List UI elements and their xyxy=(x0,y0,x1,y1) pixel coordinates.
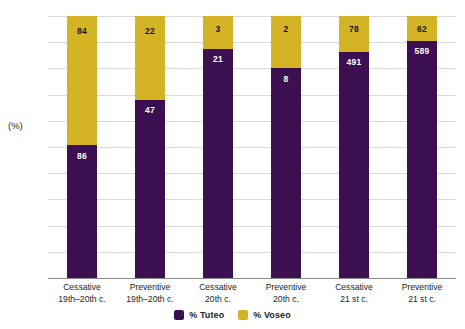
legend-swatch-icon xyxy=(238,310,248,320)
bars-layer: 84862247321287849162589 xyxy=(48,16,456,278)
bar-segment-tuteo[interactable]: 8 xyxy=(271,68,301,278)
y-axis-title: (%) xyxy=(8,120,23,131)
bar-group[interactable]: 2247 xyxy=(135,16,165,278)
x-axis-category-label: Cessative21 st c. xyxy=(320,281,388,306)
gridline xyxy=(48,278,456,279)
legend-item[interactable]: % Tuteo xyxy=(174,310,224,320)
x-axis-category-label: Cessative19th–20th c. xyxy=(48,281,116,306)
chart-legend: % Tuteo% Voseo xyxy=(0,310,465,320)
x-axis-category-label: Preventive21 st c. xyxy=(388,281,456,306)
bar-value-label: 2 xyxy=(284,25,289,34)
bar-group[interactable]: 321 xyxy=(203,16,233,278)
legend-swatch-icon xyxy=(174,310,184,320)
bar-segment-tuteo[interactable]: 47 xyxy=(135,100,165,278)
bar-value-label: 491 xyxy=(347,58,362,67)
bar-value-label: 22 xyxy=(145,27,155,36)
bar-segment-tuteo[interactable]: 21 xyxy=(203,49,233,278)
plot-area: 1009080706050403020100 84862247321287849… xyxy=(48,16,456,278)
bar-group[interactable]: 28 xyxy=(271,16,301,278)
bar-segment-voseo[interactable]: 78 xyxy=(339,16,369,52)
bar-value-label: 589 xyxy=(415,47,430,56)
bar-value-label: 62 xyxy=(417,25,427,34)
bar-value-label: 86 xyxy=(77,152,87,161)
bar-segment-tuteo[interactable]: 491 xyxy=(339,52,369,278)
legend-label: % Tuteo xyxy=(189,310,224,320)
bar-value-label: 21 xyxy=(213,55,223,64)
bar-group[interactable]: 78491 xyxy=(339,16,369,278)
bar-segment-voseo[interactable]: 2 xyxy=(271,16,301,68)
bar-value-label: 8 xyxy=(284,75,289,84)
bar-value-label: 47 xyxy=(145,106,155,115)
bar-segment-tuteo[interactable]: 589 xyxy=(407,41,437,278)
bar-group[interactable]: 62589 xyxy=(407,16,437,278)
x-axis-category-label: Preventive20th c. xyxy=(252,281,320,306)
bar-segment-tuteo[interactable]: 86 xyxy=(67,145,97,278)
bar-segment-voseo[interactable]: 22 xyxy=(135,16,165,100)
legend-item[interactable]: % Voseo xyxy=(238,310,291,320)
bar-value-label: 78 xyxy=(349,25,359,34)
bar-segment-voseo[interactable]: 62 xyxy=(407,16,437,41)
x-axis-category-label: Cessative20th c. xyxy=(184,281,252,306)
bar-segment-voseo[interactable]: 84 xyxy=(67,16,97,145)
bar-segment-voseo[interactable]: 3 xyxy=(203,16,233,49)
bar-value-label: 3 xyxy=(216,25,221,34)
x-axis-category-label: Preventive19th–20th c. xyxy=(116,281,184,306)
bar-group[interactable]: 8486 xyxy=(67,16,97,278)
legend-label: % Voseo xyxy=(253,310,291,320)
stacked-bar-chart: (%) 1009080706050403020100 8486224732128… xyxy=(0,0,465,329)
bar-value-label: 84 xyxy=(77,27,87,36)
